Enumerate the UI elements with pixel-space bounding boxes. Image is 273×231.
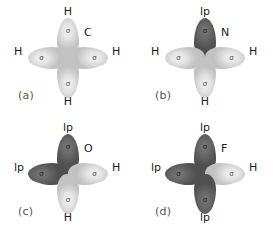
lobe-label-right-c: H — [112, 162, 120, 173]
panel-d: σ σ σ σ lp lp H lp F (d) — [137, 116, 273, 231]
sigma-label: σ — [84, 54, 106, 61]
sigma-label: σ — [57, 81, 79, 88]
sigma-label: σ — [221, 170, 243, 177]
sigma-label: σ — [57, 28, 79, 35]
lobe-label-left-a: H — [14, 46, 22, 57]
center-atom-a: C — [84, 27, 92, 38]
lobe-label-up-c: lp — [63, 122, 73, 133]
center-atom-d: F — [221, 143, 227, 154]
center-atom-b: N — [221, 27, 229, 38]
lobe-down-a: σ — [57, 58, 79, 98]
sigma-label: σ — [194, 28, 216, 35]
center-atom-c: O — [84, 143, 93, 154]
panel-key-d: (d) — [155, 205, 171, 218]
lobe-down-d: σ — [194, 174, 216, 214]
lobe-label-right-d: H — [249, 162, 257, 173]
lobe-label-down-c: H — [64, 212, 72, 223]
lobe-label-up-d: lp — [200, 122, 210, 133]
panel-key-a: (a) — [18, 89, 34, 102]
lobe-label-up-a: H — [64, 6, 72, 17]
sigma-label: σ — [31, 170, 53, 177]
orbital-figure: σ σ σ σ H H H H C (a) σ σ — [0, 0, 273, 231]
sigma-label: σ — [57, 144, 79, 151]
lobe-label-left-d: lp — [151, 162, 161, 173]
sigma-label: σ — [168, 170, 190, 177]
sigma-label: σ — [84, 170, 106, 177]
sigma-label: σ — [221, 54, 243, 61]
lobe-label-right-a: H — [112, 46, 120, 57]
sigma-label: σ — [194, 81, 216, 88]
lobe-label-left-b: H — [151, 46, 159, 57]
lobe-down-c: σ — [57, 174, 79, 214]
lobe-label-right-b: H — [249, 46, 257, 57]
sigma-label: σ — [194, 144, 216, 151]
panel-key-c: (c) — [18, 205, 33, 218]
panel-c: σ σ σ σ lp lp H H O (c) — [0, 116, 136, 231]
panel-key-b: (b) — [155, 89, 171, 102]
lobe-down-b: σ — [194, 58, 216, 98]
lobe-label-left-c: lp — [14, 162, 24, 173]
sigma-label: σ — [31, 54, 53, 61]
lobe-label-down-b: H — [201, 96, 209, 107]
lobe-label-down-d: lp — [200, 212, 210, 223]
panel-b: σ σ σ σ lp H H H N (b) — [137, 0, 273, 115]
sigma-label: σ — [57, 197, 79, 204]
sigma-label: σ — [168, 54, 190, 61]
lobe-label-down-a: H — [64, 96, 72, 107]
lobe-label-up-b: lp — [200, 6, 210, 17]
panel-a: σ σ σ σ H H H H C (a) — [0, 0, 136, 115]
sigma-label: σ — [194, 197, 216, 204]
